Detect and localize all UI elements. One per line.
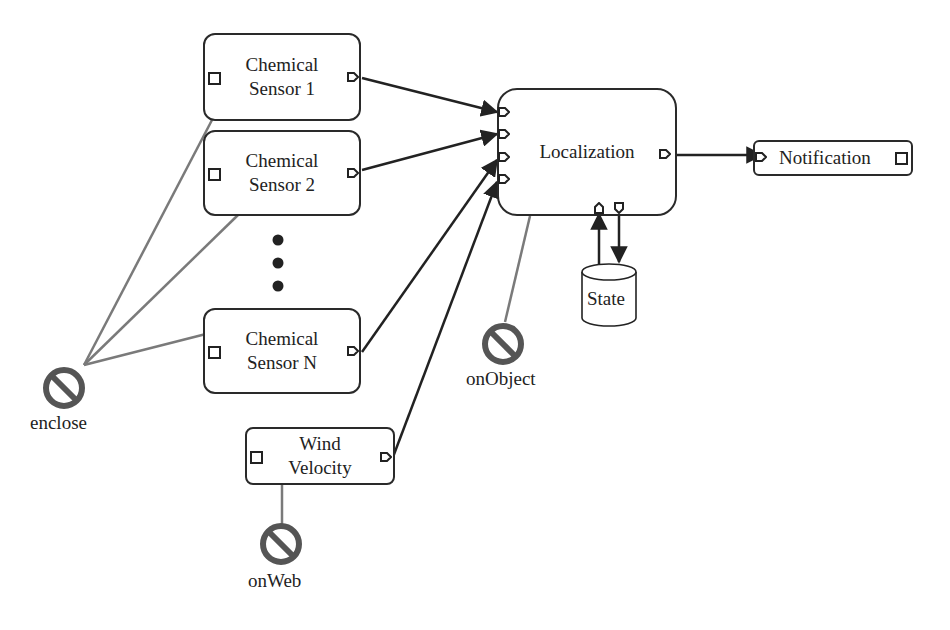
node-wind-velocity[interactable]: Wind Velocity: [245, 427, 395, 485]
arrow-wind-loc: [393, 182, 497, 457]
node-notification[interactable]: Notification: [753, 140, 913, 176]
constraint-label-onobject: onObject: [466, 368, 536, 390]
prohibited-icon-onobject: [485, 326, 521, 362]
input-port-icon: [498, 173, 510, 185]
state-label: State: [587, 288, 625, 310]
node-label: Chemical Sensor 2: [246, 149, 319, 197]
node-chemical-sensor-n[interactable]: Chemical Sensor N: [203, 308, 361, 394]
node-localization[interactable]: Localization: [497, 88, 677, 216]
arrow-cs1-loc: [362, 78, 497, 112]
node-label: Wind Velocity: [288, 432, 351, 480]
enclose-link-cs1: [84, 120, 212, 365]
output-port-icon: [380, 451, 392, 463]
node-label: Chemical Sensor 1: [246, 53, 319, 101]
input-port-icon: [250, 451, 263, 464]
output-port-icon: [895, 152, 908, 165]
prohibited-icon-onweb: [263, 526, 299, 562]
input-port-icon: [498, 151, 510, 163]
node-label: Localization: [540, 140, 635, 164]
input-port-icon: [208, 72, 221, 85]
ellipsis-dots: [273, 235, 284, 292]
output-port-icon: [347, 345, 359, 357]
node-chemical-sensor-1[interactable]: Chemical Sensor 1: [203, 33, 361, 121]
input-port-icon: [755, 151, 767, 163]
state-read-port-icon: [593, 202, 605, 214]
input-port-icon: [208, 346, 221, 359]
node-label: Chemical Sensor N: [246, 327, 319, 375]
input-port-icon: [498, 106, 510, 118]
state-write-port-icon: [613, 202, 625, 214]
edges-layer: [0, 0, 950, 630]
enclose-link-csn: [84, 334, 206, 365]
input-port-icon: [498, 128, 510, 140]
output-port-icon: [347, 71, 359, 83]
onobject-link: [505, 216, 530, 322]
output-port-icon: [659, 148, 671, 160]
input-port-icon: [208, 168, 221, 181]
node-label: Notification: [779, 146, 871, 170]
prohibited-icon-enclose: [46, 370, 82, 406]
arrow-csn-loc: [362, 160, 497, 352]
node-chemical-sensor-2[interactable]: Chemical Sensor 2: [203, 130, 361, 216]
arrow-cs2-loc: [362, 134, 497, 170]
constraint-label-onweb: onWeb: [248, 570, 301, 592]
constraint-label-enclose: enclose: [30, 412, 87, 434]
output-port-icon: [347, 167, 359, 179]
